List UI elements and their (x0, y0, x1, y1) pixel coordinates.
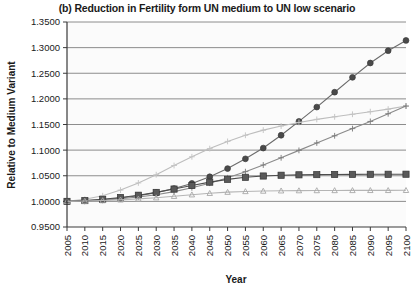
x-axis-title: Year (225, 274, 246, 285)
data-point-marker (224, 176, 230, 182)
x-tick-label: 2090 (365, 235, 376, 256)
data-point-marker (385, 171, 391, 177)
x-tick-label: 2100 (401, 235, 412, 256)
data-point-marker (385, 48, 391, 54)
data-point-marker (225, 166, 231, 172)
data-point-marker (171, 186, 177, 192)
x-tick-label: 2015 (97, 235, 108, 256)
y-tick-label: 0.9500 (31, 221, 60, 232)
y-tick-label: 1.2000 (31, 93, 60, 104)
data-point-marker (189, 182, 195, 188)
x-tick-label: 2060 (258, 235, 269, 256)
data-point-marker (367, 171, 373, 177)
y-axis-tick-labels: 0.95001.00001.05001.10001.15001.20001.25… (31, 16, 67, 232)
data-point-marker (332, 89, 338, 95)
data-point-marker (260, 145, 266, 151)
y-tick-label: 1.0500 (31, 170, 60, 181)
x-tick-label: 2095 (383, 235, 394, 256)
data-point-marker (350, 74, 356, 80)
data-point-marker (332, 171, 338, 177)
y-tick-label: 1.2500 (31, 68, 60, 79)
data-point-marker (278, 132, 284, 138)
y-tick-label: 1.3000 (31, 42, 60, 53)
x-tick-label: 2020 (115, 235, 126, 256)
data-point-marker (367, 60, 373, 66)
x-tick-label: 2045 (204, 235, 215, 256)
chart-container: (b) Reduction in Fertility form UN mediu… (0, 0, 414, 287)
data-point-marker (314, 104, 320, 110)
data-point-marker (207, 179, 213, 185)
x-axis-ticks (67, 227, 406, 231)
x-tick-label: 2075 (311, 235, 322, 256)
y-tick-label: 1.1000 (31, 145, 60, 156)
data-point-marker (260, 173, 266, 179)
x-tick-label: 2055 (240, 235, 251, 256)
y-tick-label: 1.1500 (31, 119, 60, 130)
x-tick-label: 2070 (294, 235, 305, 256)
x-tick-label: 2050 (222, 235, 233, 256)
x-tick-label: 2085 (347, 235, 358, 256)
x-tick-label: 2035 (169, 235, 180, 256)
x-tick-label: 2065 (276, 235, 287, 256)
x-tick-label: 2040 (186, 235, 197, 256)
data-point-marker (403, 171, 409, 177)
data-point-marker (296, 172, 302, 178)
y-tick-label: 1.0000 (31, 196, 60, 207)
x-tick-label: 2080 (329, 235, 340, 256)
data-point-marker (242, 174, 248, 180)
chart-plot: 0.95001.00001.05001.10001.15001.20001.25… (0, 0, 414, 287)
x-tick-label: 2005 (62, 235, 73, 256)
data-point-marker (314, 172, 320, 178)
x-tick-label: 2030 (151, 235, 162, 256)
x-axis-tick-labels: 2005201020152020202520302035204020452050… (62, 235, 412, 256)
y-tick-label: 1.3500 (31, 16, 60, 27)
data-point-marker (349, 171, 355, 177)
data-point-marker (278, 172, 284, 178)
data-point-marker (243, 156, 249, 162)
data-point-marker (403, 38, 409, 44)
x-tick-label: 2025 (133, 235, 144, 256)
y-axis-title: Relative to Medium Variant (6, 61, 17, 189)
x-tick-label: 2010 (79, 235, 90, 256)
